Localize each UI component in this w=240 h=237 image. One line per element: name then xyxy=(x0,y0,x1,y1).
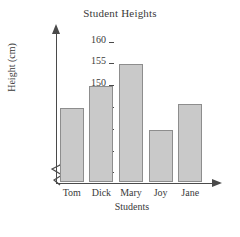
x-axis-line xyxy=(56,183,214,184)
y-tick-mark xyxy=(109,42,114,43)
bar-joy xyxy=(149,130,173,182)
x-axis-arrow-icon xyxy=(212,179,222,187)
y-axis-arrow-icon xyxy=(52,24,60,34)
chart-title: Student Heights xyxy=(0,7,240,19)
bar-mary xyxy=(119,64,143,182)
y-tick-mark xyxy=(109,63,114,64)
plot-area: 130135140145150155160 xyxy=(57,34,205,182)
bar-tom xyxy=(60,108,84,182)
y-tick-label: 160 xyxy=(91,35,106,45)
bar-dick xyxy=(89,86,113,182)
y-axis-title: Height (cm) xyxy=(6,13,17,123)
y-tick-label: 155 xyxy=(91,56,106,66)
bar-jane xyxy=(178,104,202,182)
bar-chart: Student Heights Height (cm) 130135140145… xyxy=(0,0,240,237)
x-axis-title: Students xyxy=(56,201,208,212)
x-tick-label-jane: Jane xyxy=(166,187,214,198)
